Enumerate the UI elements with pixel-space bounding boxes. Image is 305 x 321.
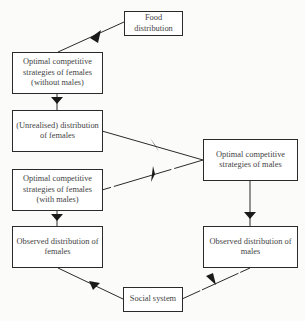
- node-social-system: Social system: [123, 287, 183, 312]
- node-food-distribution: Food distribution: [124, 11, 183, 36]
- node-observed-distribution-females: Observed distribution of females: [12, 226, 103, 268]
- edge-unrealised-to-males: [102, 131, 203, 160]
- arrowhead-icon: [206, 273, 216, 285]
- node-label: Optimal competitive strategies of female…: [19, 174, 97, 206]
- arrowhead-icon: [89, 281, 100, 290]
- arrowhead-icon: [151, 166, 155, 182]
- node-label: Social system: [130, 294, 176, 305]
- arrowhead-icon: [244, 212, 256, 219]
- edge-food-to-females: [58, 22, 124, 52]
- arrowhead-icon: [51, 97, 63, 104]
- node-male-strategies: Optimal competitive strategies of males: [203, 139, 298, 181]
- node-observed-distribution-males: Observed distribution of males: [203, 226, 298, 268]
- node-label: Optimal competitive strategies of female…: [19, 57, 97, 89]
- arrowhead-icon: [51, 214, 63, 221]
- node-label: (Unrealised) distribution of females: [15, 121, 100, 142]
- node-female-strategies-without-males: Optimal competitive strategies of female…: [12, 52, 103, 94]
- node-label: Food distribution: [134, 13, 174, 34]
- node-label: Observed distribution of females: [17, 237, 99, 258]
- node-label: Observed distribution of males: [210, 237, 292, 258]
- node-female-strategies-with-males: Optimal competitive strategies of female…: [12, 169, 103, 211]
- edge-social-to-observed-males: [182, 268, 250, 299]
- node-label: Optimal competitive strategies of males: [211, 150, 291, 171]
- node-unrealised-distribution-females: (Unrealised) distribution of females: [12, 110, 103, 152]
